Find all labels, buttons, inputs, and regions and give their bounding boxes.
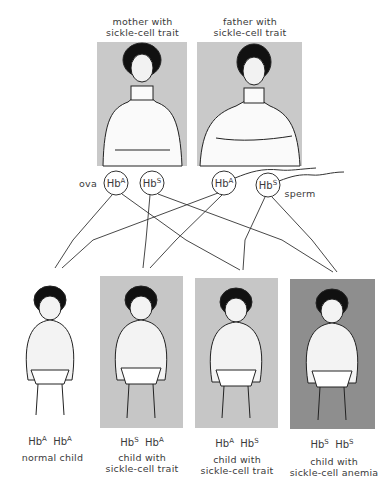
ovum-s-text: HbS <box>140 177 164 189</box>
child3-label-line2: sickle-cell trait <box>195 465 279 476</box>
child2-label-line1: child with <box>100 452 184 463</box>
child2-label-line2: sickle-cell trait <box>100 463 184 474</box>
ova-label: ova <box>76 178 100 189</box>
child1-figure <box>26 286 73 415</box>
sperm-s-text: HbS <box>256 179 280 191</box>
child2-figure <box>115 286 166 418</box>
child4-label-line2: sickle-cell anemia <box>284 467 384 478</box>
child1-genotype: HbA HbA <box>20 435 80 447</box>
child3-figure <box>210 288 261 418</box>
child3-label-line1: child with <box>195 454 279 465</box>
child4-label: child with sickle-cell anemia <box>284 456 384 478</box>
child1-label: normal child <box>15 452 90 463</box>
father-figure <box>200 44 300 166</box>
child3-label: child with sickle-cell trait <box>195 454 279 476</box>
sperm-a-text: HbA <box>212 177 236 189</box>
child1-label-line1: normal child <box>15 452 90 463</box>
sperm-label: sperm <box>284 188 316 199</box>
child2-genotype: HbS HbA <box>112 436 172 448</box>
cross-lines <box>55 193 337 272</box>
mother-figure <box>103 43 182 166</box>
ovum-a-text: HbA <box>104 177 128 189</box>
diagram-drawing <box>0 0 386 492</box>
child4-figure <box>306 289 357 420</box>
child-figures <box>26 286 357 420</box>
child3-genotype: HbA HbS <box>207 437 267 449</box>
child4-genotype: HbS HbS <box>302 438 362 450</box>
child4-label-line1: child with <box>284 456 384 467</box>
child2-label: child with sickle-cell trait <box>100 452 184 474</box>
